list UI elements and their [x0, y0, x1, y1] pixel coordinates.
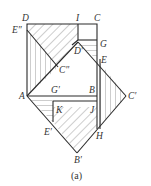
- label-D-prime: D′: [73, 46, 84, 56]
- figure-caption: (a): [71, 170, 82, 182]
- label-I: I: [75, 13, 80, 23]
- label-B-prime: B′: [74, 155, 83, 165]
- label-G: G: [100, 39, 107, 49]
- label-H: H: [95, 131, 104, 141]
- label-E-double-prime: E″: [11, 25, 23, 35]
- pythagorean-dissection-diagram: D I C E″ G D′ E C″ A G′ B C′ K J E′ H B′…: [0, 0, 151, 186]
- label-A: A: [18, 91, 25, 101]
- region-right-vertical-hatch: [97, 59, 126, 129]
- label-D: D: [21, 13, 29, 23]
- label-C: C: [94, 13, 101, 23]
- label-E: E: [100, 55, 107, 65]
- label-K: K: [55, 105, 63, 115]
- label-C-double-prime: C″: [59, 65, 70, 75]
- label-B: B: [89, 85, 95, 95]
- label-E-prime: E′: [43, 127, 53, 137]
- label-G-prime: G′: [51, 85, 61, 95]
- label-C-prime: C′: [128, 91, 137, 101]
